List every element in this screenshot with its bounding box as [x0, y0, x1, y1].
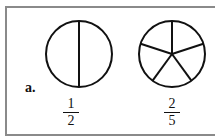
- fraction-two-fifths: 2 5: [162, 97, 182, 128]
- problem-label: a.: [25, 80, 36, 96]
- fraction-circles: [0, 0, 215, 140]
- denominator: 2: [68, 113, 75, 128]
- circle-halves: [46, 21, 112, 87]
- circle-fifths: [139, 21, 205, 87]
- numerator: 2: [169, 96, 176, 111]
- fraction-one-half: 1 2: [61, 97, 81, 128]
- denominator: 5: [169, 113, 176, 128]
- numerator: 1: [68, 96, 75, 111]
